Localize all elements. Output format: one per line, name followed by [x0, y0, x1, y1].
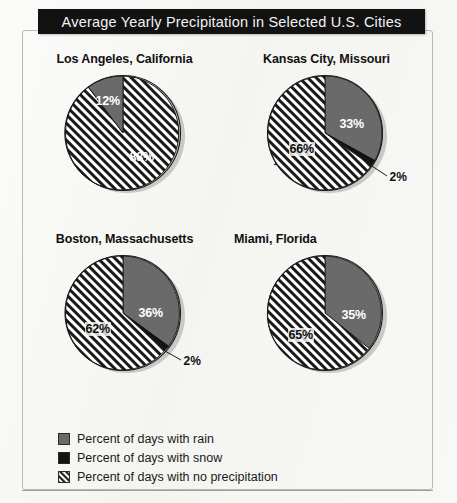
pie-title-kansas-city: Kansas City, Missouri: [224, 52, 429, 66]
pie-label-snow-boston: 2%: [184, 354, 201, 368]
pie-label-rain-miami: 35%: [342, 308, 366, 322]
bottom-divider: [22, 490, 433, 491]
pie-chart-boston: 36% 62% 2%: [64, 252, 186, 374]
pie-label-none-miami: 65%: [288, 328, 314, 342]
no-precip-swatch-icon: [58, 471, 70, 483]
pie-chart-kansas-city: 33% 66% 2%: [266, 72, 388, 194]
legend-label-no-precipitation: Percent of days with no precipitation: [77, 470, 278, 484]
pie-chart-los-angeles: 12% 88%: [64, 72, 186, 194]
pie-label-snow-kansas-city: 2%: [390, 170, 407, 184]
pie-label-rain-boston: 36%: [139, 306, 163, 320]
page-title: Average Yearly Precipitation in Selected…: [62, 14, 402, 30]
pie-title-boston: Boston, Massachusetts: [22, 232, 227, 246]
pie-panel-kansas-city: Kansas City, Missouri: [224, 52, 429, 217]
chart-legend: Percent of days with rain Percent of day…: [58, 429, 398, 486]
pie-panel-miami: Miami, Florida 35% 65%: [224, 232, 429, 397]
pie-label-rain-los-angeles: 12%: [96, 94, 120, 108]
legend-item-no-precipitation: Percent of days with no precipitation: [58, 467, 398, 486]
legend-label-rain: Percent of days with rain: [77, 432, 214, 446]
pie-panel-boston: Boston, Massachusetts 36% 62% 2%: [22, 232, 227, 397]
chart-title-banner: Average Yearly Precipitation in Selected…: [38, 9, 425, 34]
pie-panel-los-angeles: Los Angeles, California 12% 88%: [22, 52, 227, 217]
pie-label-none-los-angeles: 88%: [130, 150, 154, 164]
pie-title-los-angeles: Los Angeles, California: [22, 52, 227, 66]
pie-label-none-boston: 62%: [85, 322, 111, 336]
legend-item-rain: Percent of days with rain: [58, 429, 398, 448]
chart-page: Average Yearly Precipitation in Selected…: [0, 0, 457, 503]
legend-item-snow: Percent of days with snow: [58, 448, 398, 467]
rain-swatch-icon: [58, 433, 70, 445]
snow-swatch-icon: [58, 452, 70, 464]
legend-label-snow: Percent of days with snow: [77, 451, 222, 465]
pie-label-none-kansas-city: 66%: [289, 142, 315, 156]
pie-chart-miami: 35% 65%: [266, 252, 388, 374]
pie-title-miami: Miami, Florida: [234, 232, 439, 246]
pie-label-rain-kansas-city: 33%: [340, 117, 364, 131]
